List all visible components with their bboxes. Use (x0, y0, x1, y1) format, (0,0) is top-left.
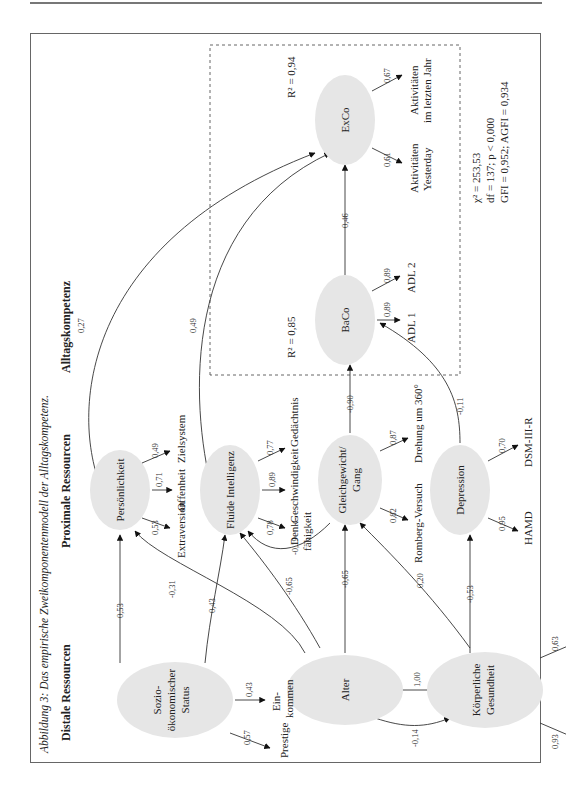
path-label: -0,14 (410, 729, 420, 747)
indicator-dsm: DSM-III-R (522, 417, 534, 467)
svg-text:0,70: 0,70 (497, 438, 507, 453)
svg-text:0,77: 0,77 (265, 440, 275, 455)
svg-text:df = 137; p < 0,000: df = 137; p < 0,000 (484, 117, 496, 203)
svg-text:0,63: 0,63 (550, 636, 560, 651)
indicator-prestige: Prestige (278, 722, 290, 758)
path-label: -0,65 (340, 570, 350, 588)
indicator-offenheit: Offenheit (175, 469, 187, 511)
svg-text:GFI = 0,952; AGFI = 0,934: GFI = 0,952; AGFI = 0,934 (498, 81, 510, 203)
svg-text:Gleichgewicht/: Gleichgewicht/ (336, 445, 348, 513)
node-persoenlichkeit: Persönlichkeit (90, 450, 150, 530)
figure-caption: Abbildung 3: Das empirische Zweikomponen… (38, 395, 51, 754)
svg-text:0,93: 0,93 (550, 734, 560, 749)
path-persoenlichkeit-exco (89, 153, 315, 490)
svg-text:Gang: Gang (350, 468, 362, 492)
svg-text:0,71: 0,71 (154, 472, 164, 487)
node-baco: BaCo (315, 275, 375, 365)
svg-text:Fluide Intelligenz: Fluide Intelligenz (224, 451, 236, 529)
path-label: -0,11 (455, 398, 465, 415)
svg-text:0,57: 0,57 (242, 730, 252, 745)
svg-text:0,95: 0,95 (497, 516, 507, 531)
svg-text:0,49: 0,49 (150, 443, 160, 458)
path-label: 0,27 (76, 318, 86, 333)
path-label: -0,31 (167, 580, 177, 598)
indicator-hamd: HAMD (522, 511, 534, 545)
indicator-drehung: Drehung um 360° (412, 384, 424, 463)
node-koerper: Körperliche Gesundheit (427, 652, 543, 728)
svg-text:Alter: Alter (339, 678, 351, 701)
header-distal: Distale Ressourcen (59, 644, 73, 741)
svg-text:im letzten Jahr: im letzten Jahr (421, 58, 433, 123)
r2-baco: R² = 0,85 (285, 316, 297, 358)
path-label: -0,90 (345, 395, 355, 413)
page-header-rule (30, 2, 542, 4)
indicator-aktivitaeten-jahr: Aktivitäten (408, 65, 420, 115)
svg-text:BaCo: BaCo (339, 307, 351, 333)
node-alter: Alter (287, 655, 403, 725)
r2-exco: R² = 0,94 (285, 56, 297, 98)
node-gleichgewicht: Gleichgewicht/ Gang (318, 435, 382, 525)
indicator-aktivitaeten-yesterday: Aktivitäten (408, 143, 420, 193)
svg-text:Gesundheit: Gesundheit (484, 665, 496, 715)
svg-text:ökonomischer: ökonomischer (165, 669, 177, 732)
path-label: 0,53 (115, 603, 125, 618)
svg-text:ExCo: ExCo (339, 107, 351, 133)
svg-text:Yesterday: Yesterday (421, 147, 433, 191)
path-label: 0,46 (340, 213, 350, 228)
svg-text:kommen: kommen (283, 679, 295, 718)
path-label: 0,43 (207, 598, 217, 613)
svg-text:0,87: 0,87 (388, 430, 398, 445)
svg-text:0,82: 0,82 (388, 508, 398, 523)
svg-text:Depression: Depression (454, 465, 466, 515)
svg-text:0,67: 0,67 (382, 68, 392, 83)
svg-text:0,78: 0,78 (265, 520, 275, 535)
indicator-einkommen: Ein- (270, 692, 282, 711)
svg-text:Status: Status (179, 687, 191, 714)
node-fluid: Fluide Intelligenz (200, 445, 260, 535)
path-label: -0,65 (284, 577, 294, 595)
svg-text:0,53: 0,53 (150, 520, 160, 535)
indicator-geschwindigkeit: Geschwindigkeit (288, 448, 300, 523)
svg-text:0,61: 0,61 (382, 152, 392, 167)
path-label: 1,00 (412, 672, 422, 687)
svg-text:0,43: 0,43 (244, 682, 254, 697)
path-label: 0,20 (415, 573, 425, 588)
svg-text:fähigkeit: fähigkeit (301, 512, 313, 551)
svg-text:0,89: 0,89 (267, 472, 277, 487)
path-alter-persoenlichkeit (135, 531, 305, 653)
header-proximal: Proximale Ressourcen (59, 434, 73, 548)
indicator-romberg: Romberg-Versuch (412, 483, 424, 563)
path-label: 0,49 (188, 318, 198, 333)
node-ses: Sozio- ökonomischer Status (117, 662, 233, 738)
header-outcome: Alltagskompetenz (59, 280, 73, 373)
node-exco: ExCo (315, 75, 375, 165)
svg-text:0,89: 0,89 (382, 268, 392, 283)
fit-indices: χ² = 253,53 df = 137; p < 0,000 GFI = 0,… (470, 81, 510, 204)
path-fluid-exco (199, 153, 330, 490)
svg-text:χ² = 253,53: χ² = 253,53 (470, 152, 482, 204)
path-alter-koerper-b (375, 718, 450, 726)
indicator-zielsystem: Zielsystem (175, 414, 187, 463)
svg-text:Persönlichkeit: Persönlichkeit (114, 459, 126, 522)
svg-text:Körperliche: Körperliche (470, 664, 482, 717)
svg-text:Sozio-: Sozio- (151, 685, 163, 714)
indicator-adl2: ADL 2 (405, 263, 417, 293)
svg-text:0,89: 0,89 (382, 302, 392, 317)
indicator-adl1: ADL 1 (405, 313, 417, 343)
path-label: -0,53 (465, 585, 475, 603)
node-depression: Depression (430, 445, 490, 535)
path-diagram: Abbildung 3: Das empirische Zweikomponen… (30, 33, 541, 763)
indicator-gedaechtnis: Gedächtnis (288, 398, 300, 447)
